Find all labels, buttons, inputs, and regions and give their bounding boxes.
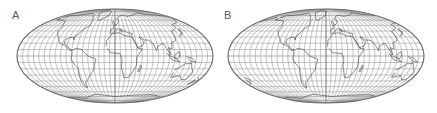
coastline bbox=[293, 48, 318, 87]
coastline bbox=[359, 65, 363, 72]
coastline bbox=[398, 29, 403, 37]
panel-b: B bbox=[0, 0, 437, 113]
coastline bbox=[396, 51, 401, 58]
coastline bbox=[388, 53, 401, 62]
world-map-b bbox=[0, 0, 437, 113]
